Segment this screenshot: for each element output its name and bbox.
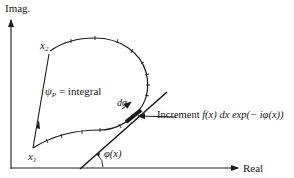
phi-angle-arc xyxy=(98,155,103,167)
phi-angle-label: φ(x) xyxy=(104,149,121,160)
dsigma-label: dσ xyxy=(117,98,127,108)
increment-label: Increment f(x) dx exp(− iφ(x)) xyxy=(157,110,284,121)
real-axis-label: Real xyxy=(243,163,263,174)
psi-label: ψP = integral xyxy=(45,86,101,99)
point-x2-label: x2 xyxy=(40,40,48,53)
psi-vector xyxy=(33,54,49,148)
complex-plane-diagram: Imag. Real x2 x1 ψP = integral dσ Increm… xyxy=(0,0,294,178)
imag-axis-label: Imag. xyxy=(5,3,30,14)
point-x1-label: x1 xyxy=(28,151,36,164)
